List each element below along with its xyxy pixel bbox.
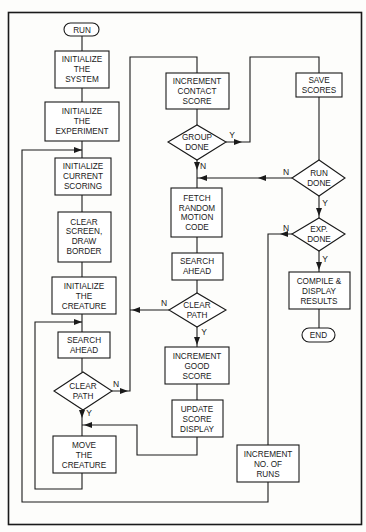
svg-text:SCORE: SCORE — [182, 415, 212, 424]
svg-text:INCREMENT: INCREMENT — [173, 77, 222, 86]
svg-text:EXP.: EXP. — [310, 225, 328, 234]
svg-text:N: N — [283, 167, 289, 177]
svg-text:DONE: DONE — [307, 235, 331, 244]
node-init-system: INITIALIZE THE SYSTEM — [55, 51, 109, 88]
svg-text:SEARCH: SEARCH — [67, 336, 101, 345]
node-search-ahead-2: SEARCH AHEAD — [172, 253, 223, 280]
node-exp-done: EXP. DONE — [292, 218, 345, 251]
svg-text:N: N — [283, 223, 289, 233]
svg-text:Y: Y — [229, 130, 235, 140]
node-search-ahead-1: SEARCH AHEAD — [58, 332, 110, 358]
svg-text:RUN: RUN — [310, 169, 328, 178]
svg-text:SEARCH: SEARCH — [180, 257, 214, 266]
svg-text:INCREMENT: INCREMENT — [173, 352, 222, 361]
svg-text:Y: Y — [201, 327, 207, 337]
svg-text:AHEAD: AHEAD — [70, 346, 98, 355]
svg-text:DISPLAY: DISPLAY — [302, 287, 337, 296]
node-inc-runs: INCREMENT NO. OF RUNS — [237, 445, 299, 482]
node-run-done: RUN DONE — [292, 160, 345, 196]
svg-text:Y: Y — [322, 198, 328, 208]
svg-text:FETCH: FETCH — [183, 194, 210, 203]
svg-text:Y: Y — [86, 408, 92, 418]
node-init-scoring: INITIALIZE CURRENT SCORING — [55, 158, 111, 195]
svg-text:CREATURE: CREATURE — [62, 302, 107, 311]
svg-text:PATH: PATH — [73, 392, 94, 401]
svg-text:THE: THE — [74, 117, 91, 126]
svg-text:EXPERIMENT: EXPERIMENT — [55, 127, 108, 136]
svg-text:SCORING: SCORING — [64, 182, 102, 191]
svg-text:INITIALIZE: INITIALIZE — [64, 282, 105, 291]
svg-text:CLEAR: CLEAR — [69, 382, 96, 391]
svg-text:COMPILE &: COMPILE & — [297, 277, 342, 286]
node-fetch-random: FETCH RANDOM MOTION CODE — [171, 188, 222, 237]
svg-text:SYSTEM: SYSTEM — [65, 75, 99, 84]
svg-text:SCORE: SCORE — [182, 372, 212, 381]
svg-text:CURRENT: CURRENT — [63, 172, 103, 181]
svg-text:INITIALIZE: INITIALIZE — [62, 107, 103, 116]
svg-text:Y: Y — [322, 254, 328, 264]
svg-text:N: N — [113, 379, 119, 389]
node-group-done: GROUP DONE — [168, 125, 226, 160]
svg-text:CLEAR: CLEAR — [70, 218, 97, 227]
svg-text:RUNS: RUNS — [256, 470, 280, 479]
svg-text:N: N — [200, 161, 206, 171]
svg-text:NO. OF: NO. OF — [254, 460, 282, 469]
svg-text:GROUP: GROUP — [182, 133, 213, 142]
node-clear-screen: CLEAR SCREEN, DRAW BORDER — [58, 212, 111, 262]
svg-text:SAVE: SAVE — [308, 76, 330, 85]
svg-text:THE: THE — [74, 65, 91, 74]
svg-text:DRAW: DRAW — [72, 237, 97, 246]
svg-text:MOTION: MOTION — [181, 213, 214, 222]
svg-text:N: N — [161, 298, 167, 308]
svg-text:INITIALIZE: INITIALIZE — [62, 55, 103, 64]
svg-text:DONE: DONE — [307, 179, 331, 188]
node-init-creature: INITIALIZE THE CREATURE — [52, 277, 116, 314]
svg-text:CREATURE: CREATURE — [62, 461, 107, 470]
svg-text:CODE: CODE — [185, 223, 209, 232]
svg-text:BORDER: BORDER — [66, 247, 101, 256]
node-clear-path-1: CLEAR PATH — [54, 372, 112, 410]
svg-text:RANDOM: RANDOM — [179, 204, 216, 213]
node-inc-good: INCREMENT GOOD SCORE — [165, 347, 229, 384]
svg-text:END: END — [310, 331, 327, 340]
svg-text:PATH: PATH — [187, 311, 208, 320]
svg-text:THE: THE — [76, 292, 93, 301]
svg-text:RUN: RUN — [73, 26, 91, 35]
svg-text:CLEAR: CLEAR — [183, 301, 210, 310]
node-inc-contact: INCREMENT CONTACT SCORE — [166, 73, 229, 109]
svg-text:MOVE: MOVE — [72, 441, 97, 450]
svg-text:UPDATE: UPDATE — [181, 405, 214, 414]
svg-text:AHEAD: AHEAD — [183, 267, 211, 276]
svg-text:DONE: DONE — [185, 143, 209, 152]
svg-text:DISPLAY: DISPLAY — [180, 425, 215, 434]
node-clear-path-2: CLEAR PATH — [169, 293, 226, 327]
node-compile-results: COMPILE & DISPLAY RESULTS — [289, 272, 350, 309]
node-save-scores: SAVE SCORES — [296, 73, 342, 97]
svg-text:SCORES: SCORES — [302, 86, 337, 95]
svg-text:INCREMENT: INCREMENT — [244, 450, 293, 459]
node-move-creature: MOVE THE CREATURE — [53, 436, 116, 473]
svg-text:SCREEN,: SCREEN, — [66, 227, 102, 236]
node-update-display: UPDATE SCORE DISPLAY — [172, 400, 223, 437]
node-init-experiment: INITIALIZE THE EXPERIMENT — [45, 102, 119, 141]
svg-text:THE: THE — [76, 451, 93, 460]
svg-text:RESULTS: RESULTS — [300, 297, 338, 306]
svg-text:GOOD: GOOD — [184, 362, 209, 371]
flowchart-canvas: N Y Y N N Y N Y N Y RUN INITIALIZE THE S… — [0, 0, 366, 532]
node-run: RUN — [64, 23, 99, 36]
svg-text:CONTACT: CONTACT — [178, 87, 217, 96]
svg-text:INITIALIZE: INITIALIZE — [63, 162, 104, 171]
svg-text:SCORE: SCORE — [182, 97, 212, 106]
node-end: END — [302, 328, 335, 342]
